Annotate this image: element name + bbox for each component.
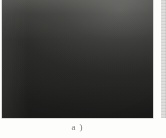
photo-vignette — [2, 0, 153, 118]
figure-panel: a ) — [0, 0, 166, 138]
next-figure-sliver — [161, 0, 166, 118]
next-figure-sliver-texture — [161, 0, 166, 118]
wire-mesh-net-photograph — [2, 0, 153, 118]
figure-caption: a ) — [0, 121, 155, 133]
